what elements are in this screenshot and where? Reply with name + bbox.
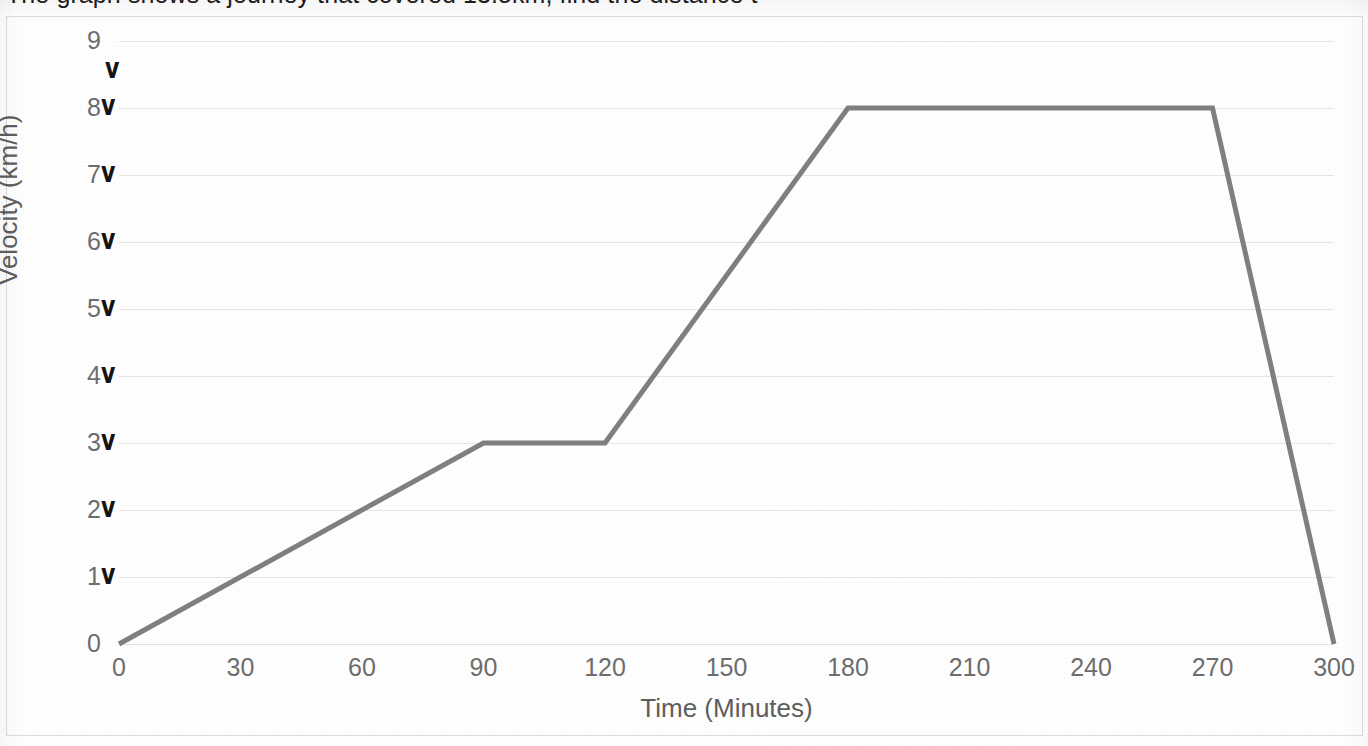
x-tick-label-240: 240	[1070, 653, 1112, 682]
y-tick-label-9: 9	[61, 28, 101, 53]
x-tick-label-180: 180	[827, 653, 869, 682]
y-axis-title: Velocity (km/h)	[0, 0, 24, 285]
handwritten-v-mark-1: v	[101, 560, 115, 588]
handwritten-v-mark-8: v	[101, 91, 115, 119]
y-tick-label-1: 1	[61, 564, 101, 589]
velocity-time-series	[119, 41, 1334, 644]
x-tick-label-120: 120	[584, 653, 626, 682]
y-tick-label-5: 5	[61, 296, 101, 321]
chart-container: Velocity (km/h) 01v2v3v4v5v6v7v8v9v 0306…	[6, 16, 1363, 736]
x-tick-label-60: 60	[348, 653, 376, 682]
y-axis-tick-labels: 01v2v3v4v5v6v7v8v9v	[53, 41, 101, 644]
handwritten-v-mark-3: v	[101, 426, 115, 454]
handwritten-v-mark-4: v	[101, 359, 115, 387]
y-tick-label-7: 7	[61, 162, 101, 187]
y-tick-label-8: 8	[61, 95, 101, 120]
y-tick-label-4: 4	[61, 363, 101, 388]
x-tick-label-90: 90	[470, 653, 498, 682]
handwritten-v-mark-6: v	[101, 225, 115, 253]
y-tick-label-2: 2	[61, 497, 101, 522]
y-tick-label-3: 3	[61, 430, 101, 455]
handwritten-v-mark-9: v	[105, 54, 119, 82]
handwritten-v-mark-7: v	[101, 158, 115, 186]
x-tick-label-300: 300	[1313, 653, 1355, 682]
x-axis-title: Time (Minutes)	[119, 693, 1334, 724]
x-tick-label-0: 0	[112, 653, 126, 682]
worksheet-heading-text: The graph shows a journey that covered 1…	[6, 0, 757, 9]
x-tick-label-210: 210	[949, 653, 991, 682]
worksheet-heading-strip: The graph shows a journey that covered 1…	[0, 0, 1368, 15]
gridline-y-0	[119, 644, 1334, 645]
y-tick-label-0: 0	[61, 631, 101, 656]
x-tick-label-150: 150	[706, 653, 748, 682]
x-tick-label-30: 30	[227, 653, 255, 682]
plot-area	[119, 41, 1334, 644]
x-axis-tick-labels: 0306090120150180210240270300	[119, 653, 1334, 689]
handwritten-v-mark-5: v	[101, 292, 115, 320]
handwritten-v-mark-2: v	[101, 493, 115, 521]
x-tick-label-270: 270	[1192, 653, 1234, 682]
y-tick-label-6: 6	[61, 229, 101, 254]
series-polyline	[119, 108, 1334, 644]
